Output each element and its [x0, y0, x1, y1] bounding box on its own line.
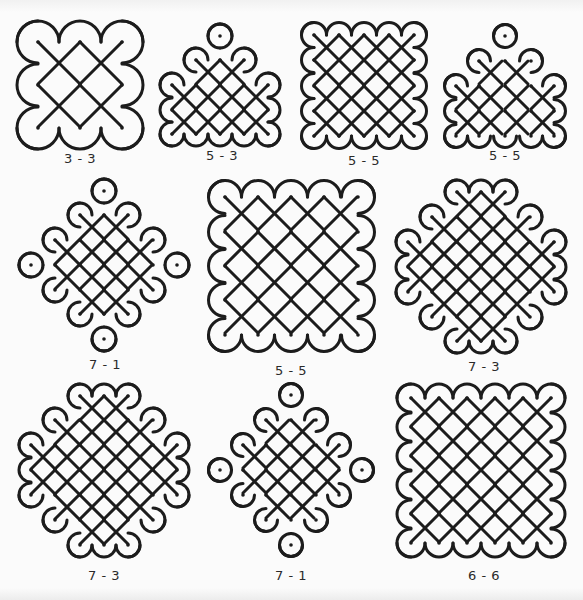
kolam-strands: [397, 384, 565, 557]
kolam-dots: [406, 190, 556, 343]
figure-caption: 7 - 1: [275, 568, 307, 583]
kolam-figure-9: [209, 384, 374, 557]
figure-caption: 5 - 5: [489, 148, 521, 163]
kolam-dots: [29, 394, 179, 547]
kolam-artwork: [0, 0, 583, 600]
figure-caption: 7 - 3: [88, 568, 120, 583]
figure-caption: 6 - 6: [468, 568, 500, 583]
kolam-dots: [29, 189, 179, 341]
kolam-figure-4: [445, 25, 566, 148]
figure-caption: 5 - 5: [348, 153, 380, 168]
kolam-figure-1: [17, 21, 143, 149]
kolam-dots: [218, 393, 364, 547]
figure-caption: 3 - 3: [64, 151, 96, 166]
kolam-figure-5: [19, 179, 189, 351]
figure-caption: 7 - 1: [89, 357, 121, 372]
kolam-plate: 3 - 35 - 35 - 55 - 57 - 15 - 57 - 37 - 3…: [0, 0, 583, 600]
kolam-figure-2: [160, 24, 280, 146]
figure-caption: 5 - 3: [206, 148, 238, 163]
kolam-figure-8: [19, 384, 189, 557]
kolam-figure-10: [397, 384, 565, 557]
page-bottom-edge: [0, 588, 583, 600]
figure-caption: 7 - 3: [468, 359, 500, 374]
kolam-figure-3: [302, 23, 427, 149]
kolam-figure-6: [209, 181, 375, 352]
figure-caption: 5 - 5: [275, 363, 307, 378]
kolam-figure-7: [396, 180, 566, 353]
